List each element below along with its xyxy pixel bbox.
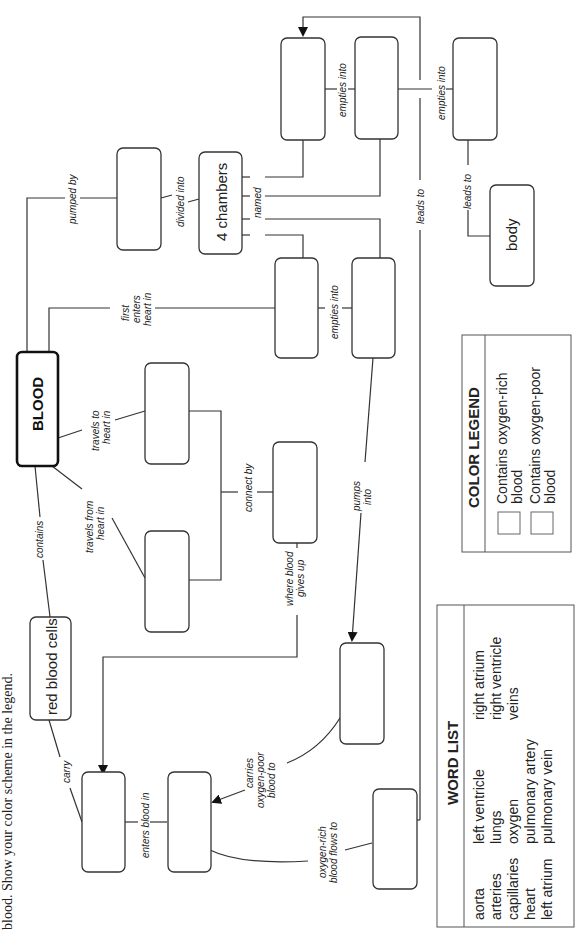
word-veins: veins <box>505 687 521 720</box>
label-oxygen-rich: oxygen-rich <box>317 826 328 878</box>
label-travels-to-2: heart in <box>101 410 112 444</box>
label-first-enters-3: heart in <box>142 292 153 326</box>
blank-node-oxygen-rich[interactable] <box>373 789 417 889</box>
word-right-atrium: right atrium <box>471 650 487 720</box>
label-named: named <box>252 187 263 218</box>
node-red-blood-cells: red blood cells <box>30 617 71 720</box>
legend-swatch-oxygen-poor[interactable] <box>531 512 553 534</box>
word-left-ventricle: left ventricle <box>471 769 487 844</box>
word-oxygen: oxygen <box>505 799 521 844</box>
label-where-blood: where blood <box>284 551 295 606</box>
blank-node-chamber-mid-2[interactable] <box>352 258 395 358</box>
blank-node-heart[interactable] <box>117 148 161 250</box>
legend-label-oxygen-poor-2: blood <box>542 470 558 504</box>
svg-text:red blood cells: red blood cells <box>43 618 60 715</box>
instruction-text: blood. Show your color scheme in the leg… <box>0 673 15 930</box>
blank-node-lungs[interactable] <box>453 38 497 140</box>
label-empties-into-mid: empties into <box>329 285 340 339</box>
label-carries-2: oxygen-poor <box>255 752 266 808</box>
label-carries-3: blood to <box>266 762 277 798</box>
word-arteries: arteries <box>488 873 504 920</box>
legend-label-oxygen-rich: Contains oxygen-rich <box>494 372 510 504</box>
word-pulmonary-artery: pulmonary artery <box>522 739 538 844</box>
concept-map: blood. Show your color scheme in the leg… <box>0 0 578 932</box>
legend-swatch-oxygen-rich[interactable] <box>498 512 520 534</box>
label-first-enters: first <box>120 304 131 321</box>
label-pumped-by: pumped by <box>67 174 78 225</box>
blank-node-carry[interactable] <box>82 772 125 872</box>
label-pumps-into-2: into <box>362 488 373 505</box>
word-left-atrium: left atrium <box>539 859 555 920</box>
label-enters-blood-in: enters blood in <box>140 792 151 858</box>
legend-label-oxygen-rich-2: blood <box>509 470 525 504</box>
node-four-chambers: 4 chambers <box>199 152 242 254</box>
word-aorta: aorta <box>471 888 487 920</box>
blank-node-travels-from[interactable] <box>145 531 189 632</box>
label-oxygen-rich-2: blood flows to <box>328 821 339 883</box>
label-where-blood-2: gives up <box>295 559 306 597</box>
blank-node-connect[interactable] <box>273 442 317 543</box>
svg-text:4 chambers: 4 chambers <box>213 163 230 241</box>
blank-node-travels-to[interactable] <box>145 363 189 464</box>
color-legend: COLOR LEGEND Contains oxygen-rich blood … <box>462 335 571 552</box>
label-empties-into-right: empties into <box>436 66 447 120</box>
word-capillaries: capillaries <box>505 858 521 920</box>
color-legend-title: COLOR LEGEND <box>465 387 482 508</box>
link-labels: pumped by divided into named first enter… <box>34 63 473 883</box>
label-travels-from-2: heart in <box>95 506 106 540</box>
label-leads-to-long: leads to <box>415 189 426 224</box>
blank-node-chamber-top-2[interactable] <box>355 37 398 139</box>
label-contains: contains <box>34 521 45 558</box>
word-list: WORD LIST aorta arteries capillaries hea… <box>437 605 574 927</box>
node-body: body <box>490 185 534 286</box>
label-divided-into: divided into <box>175 176 186 227</box>
legend-label-oxygen-poor: Contains oxygen-poor <box>527 367 543 504</box>
blank-node-pumps-into[interactable] <box>340 643 384 744</box>
blank-node-chamber-mid-1[interactable] <box>275 258 318 358</box>
svg-text:body: body <box>503 218 520 251</box>
label-leads-to-body: leads to <box>462 174 473 209</box>
node-blood: BLOOD <box>17 352 58 466</box>
label-empties-into-top: empties into <box>337 63 348 117</box>
label-travels-from: travels from <box>84 501 95 553</box>
label-carries: carries <box>244 758 255 788</box>
blank-node-chamber-top-1[interactable] <box>281 38 325 140</box>
word-list-title: WORD LIST <box>444 721 461 805</box>
word-heart: heart <box>522 888 538 920</box>
blank-node-enters-blood[interactable] <box>168 772 211 872</box>
label-first-enters-2: enters <box>131 295 142 323</box>
word-lungs: lungs <box>488 811 504 844</box>
svg-text:BLOOD: BLOOD <box>29 377 46 431</box>
word-pulmonary-vein: pulmonary vein <box>539 749 555 844</box>
word-right-ventricle: right ventricle <box>488 637 504 720</box>
label-carry: carry <box>61 760 72 783</box>
label-pumps-into: pumps <box>351 481 362 512</box>
label-travels-to: travels to <box>90 410 101 451</box>
label-connect-by: connect by <box>243 463 254 512</box>
